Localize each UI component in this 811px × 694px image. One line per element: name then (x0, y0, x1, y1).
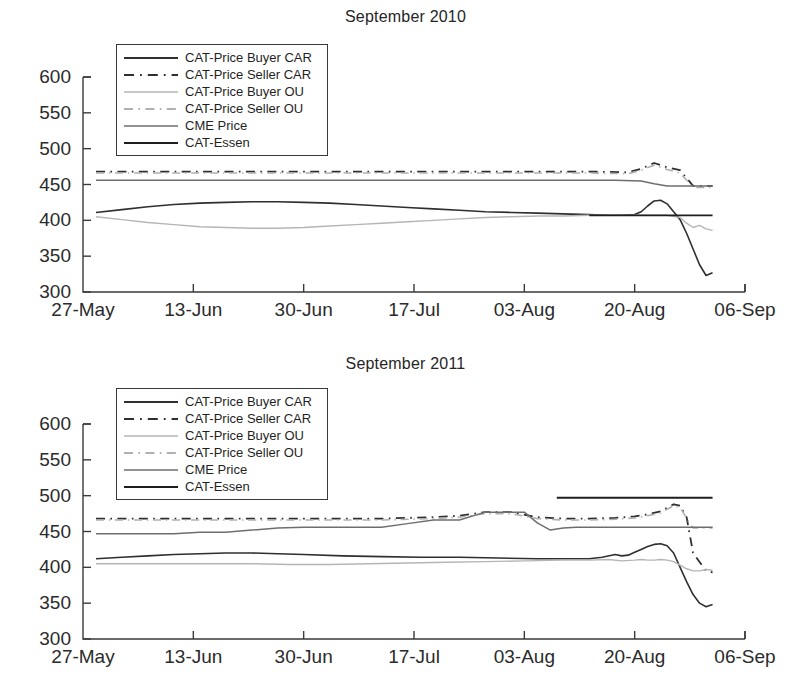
y-tick-label: 400 (39, 556, 71, 577)
legend-swatch-icon (123, 119, 179, 133)
legend-item-label: CME Price (185, 119, 247, 133)
x-tick-label: 27-May (51, 299, 115, 320)
y-tick-label: 500 (39, 485, 71, 506)
legend-item[interactable]: CME Price (123, 117, 320, 134)
series-line (96, 544, 713, 607)
y-tick-label: 500 (39, 138, 71, 159)
series-line (96, 512, 713, 534)
x-tick-label: 27-May (51, 646, 115, 667)
legend-item[interactable]: CAT-Price Seller CAR (123, 410, 320, 427)
legend-swatch-icon (123, 463, 179, 477)
x-tick-label: 13-Jun (164, 646, 222, 667)
legend-item-label: CAT-Essen (185, 136, 250, 150)
y-tick-label: 350 (39, 592, 71, 613)
figure-root: September 2010 30035040045050055060027-M… (0, 0, 811, 694)
legend-2011: CAT-Price Buyer CARCAT-Price Seller CARC… (116, 388, 328, 500)
legend-item[interactable]: CAT-Price Seller CAR (123, 66, 320, 83)
x-tick-label: 30-Jun (275, 646, 333, 667)
series-line (96, 504, 713, 572)
series-line (96, 200, 713, 275)
legend-item-label: CAT-Price Buyer OU (185, 85, 304, 99)
legend-item-label: CAT-Price Seller CAR (185, 68, 311, 82)
y-tick-label: 450 (39, 521, 71, 542)
legend-item[interactable]: CAT-Price Seller OU (123, 444, 320, 461)
x-tick-label: 17-Jul (388, 299, 440, 320)
y-tick-label: 450 (39, 174, 71, 195)
x-tick-label: 06-Sep (714, 299, 775, 320)
legend-item[interactable]: CAT-Price Buyer OU (123, 427, 320, 444)
x-tick-label: 30-Jun (275, 299, 333, 320)
x-tick-label: 13-Jun (164, 299, 222, 320)
legend-swatch-icon (123, 446, 179, 460)
legend-swatch-icon (123, 85, 179, 99)
x-tick-label: 03-Aug (494, 646, 555, 667)
legend-item[interactable]: CME Price (123, 461, 320, 478)
x-tick-label: 06-Sep (714, 646, 775, 667)
series-line (96, 165, 713, 187)
legend-swatch-icon (123, 102, 179, 116)
y-tick-label: 400 (39, 209, 71, 230)
legend-item-label: CME Price (185, 463, 247, 477)
legend-item[interactable]: CAT-Price Buyer CAR (123, 393, 320, 410)
chart-panel-2011: September 2011 30035040045050055060027-M… (0, 347, 811, 694)
legend-swatch-icon (123, 395, 179, 409)
legend-item[interactable]: CAT-Essen (123, 478, 320, 495)
y-tick-label: 350 (39, 245, 71, 266)
series-line (96, 180, 713, 186)
legend-item-label: CAT-Price Seller OU (185, 446, 303, 460)
y-tick-label: 550 (39, 102, 71, 123)
y-tick-label: 550 (39, 449, 71, 470)
series-line (96, 559, 713, 570)
x-tick-label: 20-Aug (604, 646, 665, 667)
legend-swatch-icon (123, 136, 179, 150)
legend-swatch-icon (123, 429, 179, 443)
x-tick-label: 17-Jul (388, 646, 440, 667)
legend-item-label: CAT-Price Buyer CAR (185, 51, 312, 65)
legend-item[interactable]: CAT-Price Buyer OU (123, 83, 320, 100)
legend-item[interactable]: CAT-Price Seller OU (123, 100, 320, 117)
legend-item[interactable]: CAT-Price Buyer CAR (123, 49, 320, 66)
legend-item-label: CAT-Essen (185, 480, 250, 494)
legend-item-label: CAT-Price Buyer OU (185, 429, 304, 443)
y-tick-label: 600 (39, 413, 71, 434)
series-line (96, 163, 713, 186)
legend-2010: CAT-Price Buyer CARCAT-Price Seller CARC… (116, 44, 328, 156)
legend-swatch-icon (123, 480, 179, 494)
legend-swatch-icon (123, 68, 179, 82)
series-line (96, 215, 713, 230)
legend-item[interactable]: CAT-Essen (123, 134, 320, 151)
y-tick-label: 600 (39, 66, 71, 87)
legend-swatch-icon (123, 412, 179, 426)
legend-item-label: CAT-Price Seller OU (185, 102, 303, 116)
x-tick-label: 03-Aug (494, 299, 555, 320)
x-tick-label: 20-Aug (604, 299, 665, 320)
chart-panel-2010: September 2010 30035040045050055060027-M… (0, 0, 811, 347)
legend-item-label: CAT-Price Buyer CAR (185, 395, 312, 409)
legend-swatch-icon (123, 51, 179, 65)
legend-item-label: CAT-Price Seller CAR (185, 412, 311, 426)
